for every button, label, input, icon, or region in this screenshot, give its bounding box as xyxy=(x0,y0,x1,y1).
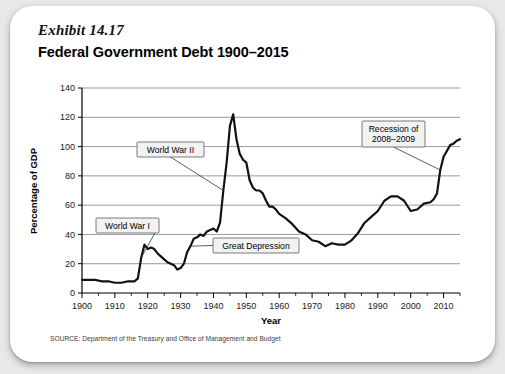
annotation-recession-2008-2009: Recession of 2008–2009 xyxy=(362,121,440,170)
annotation-label-world-war-i: World War I xyxy=(105,221,150,231)
x-tick-label: 1990 xyxy=(368,301,388,311)
y-tick-label: 80 xyxy=(65,171,75,181)
source-note: SOURCE: Department of the Treasury and O… xyxy=(50,335,281,342)
y-tick-label: 100 xyxy=(60,142,75,152)
y-tick-label: 140 xyxy=(60,83,75,93)
annotation-leader-line-great-depression xyxy=(190,246,213,247)
annotation-label-recession-line2: 2008–2009 xyxy=(372,134,415,144)
y-axis-title: Percentage of GDP xyxy=(28,147,39,234)
x-tick-label: 1930 xyxy=(171,301,191,311)
chart-plot-area: 020406080100120140 190019101920193019401… xyxy=(10,6,495,362)
x-tick-label: 1920 xyxy=(138,301,158,311)
annotation-label-great-depression: Great Depression xyxy=(222,241,290,251)
x-tick-label: 2000 xyxy=(401,301,421,311)
y-tick-label: 20 xyxy=(65,259,75,269)
x-tick-label: 1940 xyxy=(203,301,223,311)
gridlines xyxy=(82,88,460,264)
x-axis-title: Year xyxy=(261,315,281,326)
y-tick-label: 120 xyxy=(60,112,75,122)
line-chart-svg: 020406080100120140 190019101920193019401… xyxy=(10,6,495,362)
x-tick-label: 2010 xyxy=(434,301,454,311)
annotation-world-war-i: World War I xyxy=(96,218,159,258)
annotation-leader-line-world-war-ii xyxy=(171,157,224,191)
x-tick-label: 1970 xyxy=(302,301,322,311)
x-tick-label: 1980 xyxy=(335,301,355,311)
chart-annotations: World War I World War II Great Depressio… xyxy=(96,121,440,258)
x-axis-ticks: 1900191019201930194019501960197019801990… xyxy=(72,293,460,311)
x-tick-label: 1910 xyxy=(105,301,125,311)
x-tick-label: 1960 xyxy=(269,301,289,311)
y-tick-label: 60 xyxy=(65,200,75,210)
annotation-great-depression: Great Depression xyxy=(190,238,299,253)
x-tick-label: 1950 xyxy=(236,301,256,311)
y-axis-ticks: 020406080100120140 xyxy=(60,83,82,298)
y-tick-label: 0 xyxy=(70,288,75,298)
annotation-world-war-ii: World War II xyxy=(137,142,223,191)
y-tick-label: 40 xyxy=(65,230,75,240)
annotation-leader-line-recession xyxy=(394,147,441,170)
x-tick-label: 1900 xyxy=(72,301,92,311)
annotation-label-recession-line1: Recession of xyxy=(369,124,419,134)
figure-card: Exhibit 14.17 Federal Government Debt 19… xyxy=(10,6,495,362)
annotation-label-world-war-ii: World War II xyxy=(147,145,194,155)
